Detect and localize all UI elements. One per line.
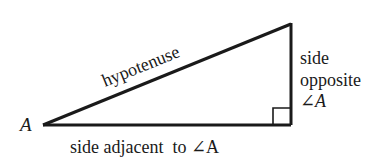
hypotenuse-label: hypotenuse: [99, 41, 183, 90]
right-triangle: [43, 23, 291, 125]
adjacent-label: side adjacent to ∠A: [70, 137, 219, 157]
right-angle-marker: [273, 108, 291, 125]
vertex-a-label: A: [18, 114, 32, 135]
diagram-canvas: A hypotenuse side opposite ∠A side adjac…: [0, 0, 390, 164]
opposite-label-line1: side: [300, 48, 329, 68]
opposite-label-line3: ∠A: [300, 91, 327, 111]
hypotenuse-line: [43, 24, 291, 125]
opposite-label-line2: opposite: [300, 70, 361, 90]
